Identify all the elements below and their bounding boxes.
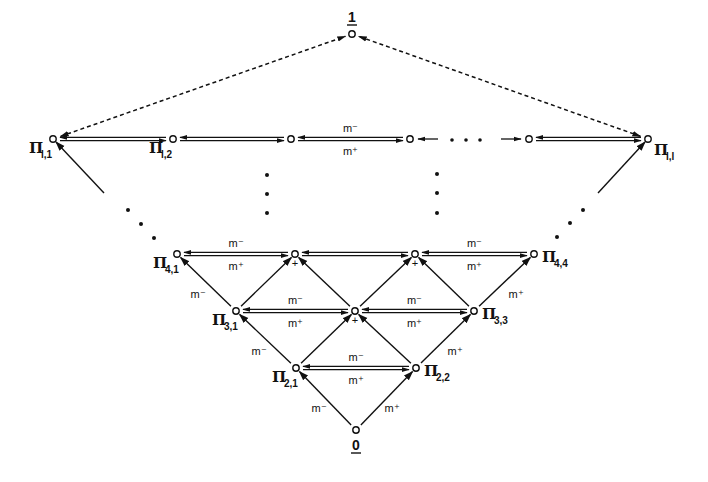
continuation-dot xyxy=(555,235,559,239)
edge-label-m-minus: m⁻ xyxy=(288,294,303,306)
node-one xyxy=(349,31,355,37)
left-outer-edge xyxy=(56,142,104,193)
edge-label-m-plus: m⁺ xyxy=(467,260,482,272)
edges-layer xyxy=(56,36,645,425)
node-pi-4-4 xyxy=(531,251,537,257)
dots-mid-right-vertical xyxy=(435,172,439,215)
node-subscript-pi-4-4: 4,4 xyxy=(554,258,568,269)
double-edge-pi-l-5-pi-l-l xyxy=(536,137,641,140)
edge-label-diagonal: m⁻ xyxy=(190,288,205,300)
edge-label-m-plus: m⁺ xyxy=(288,317,303,329)
dashed-edge-pi-l-l xyxy=(359,36,641,136)
node-pi-3-1 xyxy=(233,308,239,314)
double-edge-pi-2-1-pi-2-2 xyxy=(303,366,409,369)
diagonal-edge-pi-3-2-pi-4-2 xyxy=(299,257,350,306)
lattice-diagram: m⁻m⁺m⁻m⁺m⁻m⁺m⁻m⁺m⁻m⁺m⁻m⁺m⁻m⁺m⁻m⁺m⁻m⁺Πl,1… xyxy=(0,0,708,482)
dots-mid-left-vertical xyxy=(265,173,269,215)
continuation-dot xyxy=(435,172,439,176)
edge-label-m-plus: m⁺ xyxy=(228,260,243,272)
ellipsis-segment xyxy=(418,138,521,142)
edge-label-m-minus: m⁻ xyxy=(343,122,358,134)
continuation-dot xyxy=(581,208,585,212)
dashed-line xyxy=(359,36,641,136)
edge-label-m-plus: m⁺ xyxy=(407,317,422,329)
edge-label-m-minus: m⁻ xyxy=(228,237,243,249)
double-edge-pi-3-2-pi-3-3 xyxy=(362,309,467,312)
diagonal-edge-pi-2-2-pi-3-2 xyxy=(359,314,411,363)
diagonal-edge-pi-2-2-pi-3-3 xyxy=(421,315,470,364)
labels-layer: m⁻m⁺m⁻m⁺m⁻m⁺m⁻m⁺m⁻m⁺m⁻m⁺m⁻m⁺m⁻m⁺m⁻m⁺Πl,1… xyxy=(29,9,675,453)
node-pi-l-1 xyxy=(50,136,56,142)
diagonal-edge-pi-3-1-pi-4-2 xyxy=(241,257,291,306)
dots-right-diagonal xyxy=(555,208,585,239)
node-subscript-pi-3-1: 3,1 xyxy=(224,321,238,332)
dashed-edge-pi-l-1 xyxy=(61,36,346,136)
dashed-line xyxy=(61,36,346,136)
node-plus-mark: + xyxy=(292,257,298,269)
continuation-dot xyxy=(568,221,572,225)
node-pi-4-1 xyxy=(174,251,180,257)
bound-label-zero: 0 xyxy=(352,437,360,453)
double-edge-pi-3-1-pi-3-2 xyxy=(243,309,348,312)
ellipsis-dot xyxy=(478,138,482,142)
node-pi-l-3 xyxy=(288,136,294,142)
node-subscript-pi-l-1: l,1 xyxy=(41,149,53,160)
continuation-dot xyxy=(139,222,143,226)
diagonal-edge-pi-3-1-pi-4-1 xyxy=(181,257,231,306)
diagonal-edge-pi-3-3-pi-4-3 xyxy=(419,257,469,306)
continuation-dot xyxy=(126,208,130,212)
diagonal-edge-pi-3-2-pi-4-3 xyxy=(360,257,411,306)
double-edge-pi-l-2-pi-l-3 xyxy=(180,137,284,140)
node-pi-l-5 xyxy=(526,136,532,142)
node-subscript-pi-3-3: 3,3 xyxy=(494,315,508,326)
node-pi-3-3 xyxy=(471,308,477,314)
node-pi-2-1 xyxy=(293,365,299,371)
ellipsis-dot xyxy=(450,138,454,142)
node-subscript-pi-l-2: l,2 xyxy=(161,149,173,160)
edge-label-diagonal: m⁺ xyxy=(384,402,399,414)
nodes-layer xyxy=(50,31,651,433)
edge-label-m-plus: m⁺ xyxy=(348,374,363,386)
ellipsis-dot xyxy=(464,138,468,142)
continuation-dots-layer xyxy=(126,172,585,240)
node-plus-mark: + xyxy=(352,314,358,326)
node-pi-l-4 xyxy=(407,136,413,142)
diagonal-edge-zero-pi-2-1 xyxy=(299,372,351,425)
continuation-dot xyxy=(152,236,156,240)
continuation-dot xyxy=(265,192,269,196)
node-pi-l-l xyxy=(645,136,651,142)
edge-label-diagonal: m⁻ xyxy=(251,345,266,357)
bound-label-one: 1 xyxy=(348,9,356,25)
node-pi-l-2 xyxy=(170,136,176,142)
node-zero xyxy=(353,427,359,433)
edge-label-diagonal: m⁺ xyxy=(508,288,523,300)
edge-label-m-plus: m⁺ xyxy=(343,145,358,157)
node-subscript-pi-l-l: l,l xyxy=(666,151,675,162)
edge-label-diagonal: m⁺ xyxy=(447,345,462,357)
double-edge-pi-4-3-pi-4-4 xyxy=(422,252,527,255)
diagonal-edge-pi-2-1-pi-3-2 xyxy=(301,314,351,363)
continuation-dot xyxy=(265,173,269,177)
edge-label-m-minus: m⁻ xyxy=(348,351,363,363)
dots-left-diagonal xyxy=(126,208,156,240)
double-edge-pi-l-3-pi-l-4 xyxy=(298,137,403,140)
node-pi-2-2 xyxy=(413,365,419,371)
node-subscript-pi-4-1: 4,1 xyxy=(165,264,179,275)
right-outer-edge xyxy=(598,142,645,193)
continuation-dot xyxy=(435,211,439,215)
edge-label-diagonal: m⁻ xyxy=(311,402,326,414)
double-edge-pi-4-1-pi-4-2 xyxy=(184,252,288,255)
double-edge-pi-4-2-pi-4-3 xyxy=(302,252,408,255)
continuation-dot xyxy=(435,191,439,195)
continuation-dot xyxy=(265,211,269,215)
node-subscript-pi-2-1: 2,1 xyxy=(284,378,298,389)
diagonal-edge-zero-pi-2-2 xyxy=(361,372,413,425)
edge-label-m-minus: m⁻ xyxy=(467,237,482,249)
edge-label-m-minus: m⁻ xyxy=(407,294,422,306)
node-plus-mark: + xyxy=(412,257,418,269)
node-subscript-pi-2-2: 2,2 xyxy=(436,372,450,383)
